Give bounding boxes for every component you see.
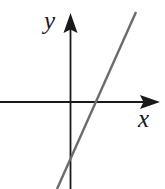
graph-figure: y x xyxy=(0,0,165,189)
x-axis-label: x xyxy=(138,106,149,131)
y-axis-label: y xyxy=(44,8,55,33)
graph-canvas xyxy=(0,0,165,189)
plotted-line xyxy=(57,12,136,189)
